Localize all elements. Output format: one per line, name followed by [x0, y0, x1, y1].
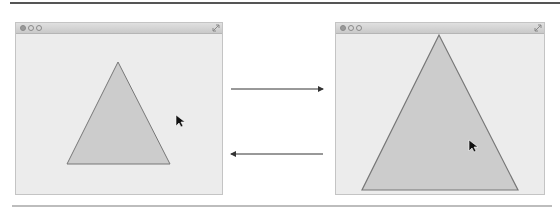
cursor-icon [176, 115, 185, 127]
diagram-canvas [0, 0, 560, 208]
bottom-rule [12, 205, 552, 207]
large-triangle [362, 35, 518, 190]
small-triangle [67, 62, 170, 164]
